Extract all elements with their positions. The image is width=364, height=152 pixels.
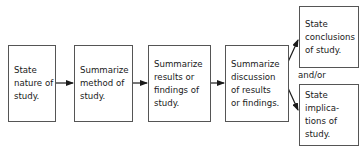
node-state-conclusions: State conclusions of study. xyxy=(299,6,359,68)
node-text: State implica- tions of study. xyxy=(305,89,339,141)
node-text: State nature of study. xyxy=(14,64,53,103)
node-summarize-method: Summarize method of study. xyxy=(74,45,133,122)
arrow-n4-n6 xyxy=(288,88,298,110)
node-text: Summarize method of study. xyxy=(80,64,129,103)
node-text: Summarize results or findings of study. xyxy=(154,58,203,110)
node-state-nature: State nature of study. xyxy=(8,45,56,122)
node-state-implications: State implica- tions of study. xyxy=(299,84,359,146)
node-summarize-discussion: Summarize discussion of results or findi… xyxy=(225,45,289,122)
node-summarize-results: Summarize results or findings of study. xyxy=(148,45,211,122)
node-text: State conclusions of study. xyxy=(305,18,355,57)
connector-label-and-or: and/or xyxy=(298,70,326,81)
arrow-n4-n5 xyxy=(288,40,298,62)
node-text: Summarize discussion of results or findi… xyxy=(231,58,280,110)
